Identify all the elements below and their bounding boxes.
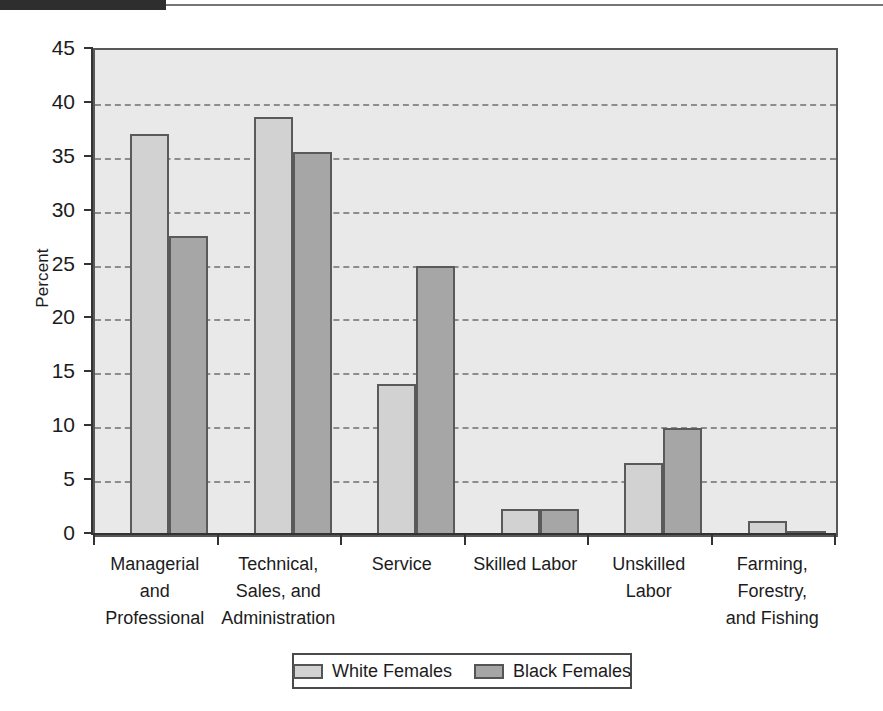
bar [624,463,663,535]
plot-area [93,48,838,537]
y-axis-tick-label: 10 [35,414,75,435]
y-axis-tick-label: 20 [35,306,75,327]
y-axis-tick-label: 35 [35,145,75,166]
bar [293,152,332,535]
legend-label: White Females [332,661,452,682]
y-axis-tick-label: 30 [35,199,75,220]
bar [540,509,579,535]
x-axis-tick-mark [217,535,219,545]
y-axis-tick-label: 0 [35,522,75,543]
x-axis-category-line: and Fishing [697,605,847,632]
gridline [95,158,836,160]
bar [416,266,455,535]
legend-item-black-females[interactable]: Black Females [474,661,631,682]
x-axis-category-line: Sales, and [203,578,353,605]
legend-swatch-icon [293,664,323,679]
bar [377,384,416,535]
x-axis-tick-mark [93,535,95,545]
y-axis-tick-label: 25 [35,253,75,274]
x-axis-tick-mark [464,535,466,545]
x-axis-category-line: Administration [203,605,353,632]
bar [663,428,702,535]
bar [501,509,540,535]
y-axis-tick-label: 15 [35,360,75,381]
y-axis-tick-label: 5 [35,468,75,489]
bar [130,134,169,535]
y-axis-tick-label: 45 [35,37,75,58]
legend-label: Black Females [513,661,631,682]
x-axis-category-line: Forestry, [697,578,847,605]
chart-legend: White Females Black Females [292,653,632,689]
bar [169,236,208,535]
x-axis-tick-mark [834,535,836,545]
bar [254,117,293,535]
legend-swatch-icon [474,664,504,679]
legend-item-white-females[interactable]: White Females [293,661,452,682]
x-axis-category-line: Farming, [697,551,847,578]
x-axis-tick-mark [711,535,713,545]
y-axis-tick-label: 40 [35,91,75,112]
gridline [95,212,836,214]
gridline [95,104,836,106]
x-axis-tick-mark [587,535,589,545]
x-axis-category-label: Farming,Forestry,and Fishing [697,551,847,632]
bar-chart-figure: Percent 454035302520151050 White Females… [0,0,883,711]
x-axis-tick-mark [340,535,342,545]
